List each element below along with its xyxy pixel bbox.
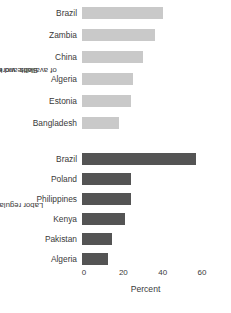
bar-row: Kenya bbox=[26, 208, 231, 230]
bar-row: Poland bbox=[26, 168, 231, 190]
bar-row: Zambia bbox=[26, 24, 231, 46]
bar-track bbox=[82, 68, 231, 90]
bar-track bbox=[82, 46, 231, 68]
panel-labor: Labor regulations Brazil Poland Philippi… bbox=[0, 146, 231, 266]
panel-skills-rows: Brazil Zambia China Algeria bbox=[26, 0, 231, 140]
bar-labor-brazil bbox=[82, 153, 196, 165]
bar-track bbox=[82, 148, 231, 170]
category-label: Algeria bbox=[26, 254, 82, 264]
panel-labor-axis-title: Labor regulations bbox=[0, 146, 26, 266]
x-tick-label: 40 bbox=[158, 268, 167, 278]
bar-row: Algeria bbox=[26, 248, 231, 270]
bar-row: Brazil bbox=[26, 148, 231, 170]
x-tick-label: 20 bbox=[119, 268, 128, 278]
bar-track bbox=[82, 112, 231, 134]
panel-labor-rows: Brazil Poland Philippines Kenya bbox=[26, 146, 231, 266]
bar-skills-bangladesh bbox=[82, 117, 119, 129]
bar-row: Philippines bbox=[26, 188, 231, 210]
bar-labor-philippines bbox=[82, 193, 131, 205]
bar-labor-pakistan bbox=[82, 233, 112, 245]
bar-track bbox=[82, 168, 231, 190]
bar-track bbox=[82, 2, 231, 24]
bar-labor-algeria bbox=[82, 253, 108, 265]
bar-row: Brazil bbox=[26, 2, 231, 24]
panel-skills-axis-title: Skills and education of available worker… bbox=[0, 0, 26, 140]
bar-labor-kenya bbox=[82, 213, 125, 225]
bar-skills-zambia bbox=[82, 29, 155, 41]
x-axis: 0 20 40 60 Percent bbox=[26, 268, 231, 313]
category-label: Kenya bbox=[26, 214, 82, 224]
bar-labor-poland bbox=[82, 173, 131, 185]
category-label: China bbox=[26, 52, 82, 62]
bar-track bbox=[82, 248, 231, 270]
panel-skills: Skills and education of available worker… bbox=[0, 0, 231, 140]
bar-skills-estonia bbox=[82, 95, 131, 107]
category-label: Zambia bbox=[26, 30, 82, 40]
bar-row: Estonia bbox=[26, 90, 231, 112]
bar-row: Pakistan bbox=[26, 228, 231, 250]
bar-track bbox=[82, 90, 231, 112]
bar-track bbox=[82, 208, 231, 230]
x-tick-label: 0 bbox=[82, 268, 86, 278]
bar-row: Bangladesh bbox=[26, 112, 231, 134]
category-label: Brazil bbox=[26, 154, 82, 164]
bar-skills-algeria bbox=[82, 73, 133, 85]
bar-row: China bbox=[26, 46, 231, 68]
category-label: Bangladesh bbox=[26, 118, 82, 128]
category-label: Algeria bbox=[26, 74, 82, 84]
x-axis-title: Percent bbox=[26, 284, 231, 294]
grouped-bar-chart: Skills and education of available worker… bbox=[0, 0, 231, 313]
category-label: Brazil bbox=[26, 8, 82, 18]
bar-track bbox=[82, 188, 231, 210]
category-label: Pakistan bbox=[26, 234, 82, 244]
bar-skills-brazil bbox=[82, 7, 163, 19]
category-label: Estonia bbox=[26, 96, 82, 106]
bar-track bbox=[82, 24, 231, 46]
bar-skills-china bbox=[82, 51, 143, 63]
bar-track bbox=[82, 228, 231, 250]
x-tick-label: 60 bbox=[198, 268, 207, 278]
category-label: Poland bbox=[26, 174, 82, 184]
bar-row: Algeria bbox=[26, 68, 231, 90]
category-label: Philippines bbox=[26, 194, 82, 204]
